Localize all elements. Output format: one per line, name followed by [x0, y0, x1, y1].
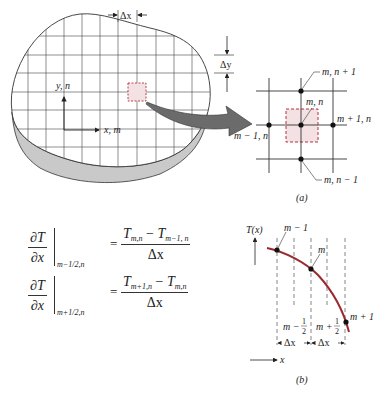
half-right-num: 1 — [335, 317, 339, 326]
eq1-eval-bar — [54, 228, 55, 266]
eq2-rhs-b: T — [167, 274, 175, 289]
plate: y, n x, m Δx Δy — [0, 0, 234, 200]
node-bottom — [298, 156, 303, 161]
caption-b: (b) — [296, 374, 308, 386]
node-label-left: m − 1, n — [234, 130, 268, 141]
node-label-right: m + 1, n — [337, 113, 371, 124]
equation-2: ∂T ∂x m+1/2,n = Tm+1,n − Tm,n Δx — [28, 274, 218, 324]
node-label-top: m, n + 1 — [322, 66, 356, 77]
node-left — [266, 122, 271, 127]
eq1-lhs: ∂T ∂x — [28, 230, 47, 266]
half-left-num: 1 — [302, 317, 306, 326]
node-top — [298, 88, 303, 93]
node-center — [298, 122, 303, 127]
node-label-center: m, n — [306, 96, 323, 107]
eq1-rhs: Tm,n − Tm−1, n Δx — [121, 226, 190, 263]
point-label-m-minus-1: m − 1 — [284, 222, 308, 233]
node-right — [330, 122, 335, 127]
eq1-lhs-den: ∂x — [31, 248, 44, 266]
point-m — [308, 266, 313, 271]
x-axis-label: x — [279, 354, 285, 365]
plate-x-axis-label: x, m — [103, 124, 121, 135]
eq2-equals: = — [110, 284, 117, 300]
spacing-label-2: Δx — [318, 337, 329, 348]
eq1-lhs-num: ∂T — [28, 230, 47, 248]
eq1-rhs-a: T — [123, 226, 131, 241]
plate-y-axis-label: y, n — [55, 80, 70, 91]
eq1-rhs-a-sub: m,n — [131, 234, 143, 243]
node-grid: m, n + 1 m, n m + 1, n m − 1, n m, n − 1 — [234, 66, 371, 185]
eq1-rhs-den: Δx — [148, 245, 164, 263]
eq2-rhs-a-sub: m+1,n — [131, 282, 152, 291]
spacing-label-1: Δx — [284, 337, 295, 348]
eq2-rhs-a: T — [123, 274, 131, 289]
caption-a: (a) — [296, 192, 308, 204]
eq2-lhs-den: ∂x — [31, 296, 44, 314]
eq1-rhs-b-sub: m−1, n — [165, 234, 188, 243]
eq2-lhs: ∂T ∂x — [28, 278, 47, 314]
dx-label: Δx — [120, 10, 131, 21]
point-m-plus-1 — [343, 319, 348, 324]
eq2-eval-bar — [54, 276, 55, 314]
half-label-left: m − — [283, 321, 299, 332]
plate-top-face — [11, 14, 210, 167]
eq2-rhs-b-sub: m,n — [175, 282, 187, 291]
eq1-equals: = — [110, 236, 117, 252]
eq2-eval-at: m+1/2,n — [57, 308, 84, 317]
dy-label: Δy — [220, 59, 231, 70]
y-axis-label: T(x) — [246, 224, 263, 236]
half-right-den: 2 — [335, 327, 339, 336]
equation-1: ∂T ∂x m−1/2,n = Tm,n − Tm−1, n Δx — [28, 226, 218, 276]
figure-b: m − 1 m m + 1 m − 1 2 m + 1 2 Δx Δx T(x)… — [246, 222, 374, 365]
eq2-rhs: Tm+1,n − Tm,n Δx — [121, 274, 188, 311]
half-label-right: m + — [316, 321, 332, 332]
eq2-lhs-num: ∂T — [28, 278, 47, 296]
plate-control-volume — [128, 83, 146, 101]
eq2-rhs-den: Δx — [147, 293, 163, 311]
node-label-bottom: m, n − 1 — [324, 174, 358, 185]
eq2-rhs-minus: − — [152, 274, 167, 289]
point-label-m-plus-1: m + 1 — [350, 311, 374, 322]
point-m-minus-1 — [274, 247, 279, 252]
point-label-m: m — [318, 244, 325, 255]
diagram-canvas: y, n x, m Δx Δy — [0, 0, 392, 400]
eq1-eval-at: m−1/2,n — [57, 260, 84, 269]
half-left-den: 2 — [302, 327, 306, 336]
eq1-rhs-minus: − — [143, 226, 158, 241]
